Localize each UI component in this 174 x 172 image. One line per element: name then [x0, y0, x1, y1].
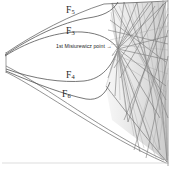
misiurewicz-figure: F5 F3 F4 F6 1st Misiurewicz point → [0, 0, 174, 172]
curve-label-f5: F5 [66, 6, 75, 16]
curve-label-f4: F4 [66, 71, 75, 81]
curve-f6 [6, 71, 110, 99]
figure-canvas [0, 0, 174, 172]
curve-label-f5-sub: 5 [71, 8, 75, 15]
curve-label-f3-sub: 3 [71, 29, 75, 36]
misiurewicz-point-annotation: 1st Misiurewicz point → [56, 44, 112, 49]
curve-label-f6-sub: 6 [67, 92, 71, 99]
curve-f4 [6, 49, 118, 82]
curve-label-f3: F3 [66, 27, 75, 37]
curve-label-f6: F6 [62, 90, 71, 100]
curve-label-f4-sub: 4 [71, 73, 75, 80]
